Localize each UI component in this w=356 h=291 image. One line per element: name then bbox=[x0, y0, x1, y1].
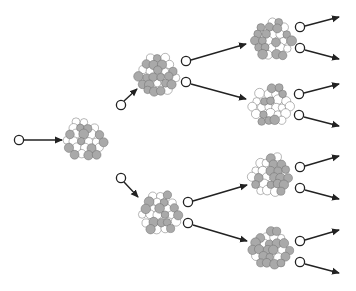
connector-node bbox=[116, 100, 125, 109]
cell-cluster bbox=[247, 153, 292, 197]
cell bbox=[174, 211, 183, 220]
cell bbox=[258, 118, 265, 125]
cell bbox=[77, 137, 84, 144]
cell-cluster bbox=[63, 118, 108, 160]
cell bbox=[70, 150, 79, 159]
cell bbox=[156, 87, 165, 96]
connector-node bbox=[183, 197, 192, 206]
cell bbox=[273, 227, 281, 235]
cell bbox=[255, 88, 265, 98]
cell bbox=[279, 239, 288, 248]
connector-node bbox=[294, 89, 303, 98]
arrow-edge bbox=[191, 44, 246, 60]
cell bbox=[141, 204, 151, 214]
cell bbox=[84, 151, 93, 160]
cell bbox=[287, 36, 297, 46]
cell bbox=[251, 109, 260, 118]
cell bbox=[167, 224, 175, 232]
cell bbox=[161, 211, 169, 219]
arrow-edge bbox=[305, 156, 339, 166]
cell-cluster bbox=[250, 18, 296, 60]
cell bbox=[284, 45, 291, 52]
cell bbox=[258, 49, 268, 59]
cell bbox=[272, 38, 281, 47]
connector-node bbox=[295, 162, 304, 171]
arrow-edge bbox=[124, 89, 137, 101]
cell bbox=[163, 191, 171, 199]
arrow-edge bbox=[304, 117, 339, 126]
cell bbox=[277, 187, 285, 195]
cell-cluster bbox=[248, 84, 295, 126]
cell bbox=[267, 97, 275, 105]
connector-node bbox=[295, 183, 304, 192]
arrow-edge bbox=[305, 230, 339, 240]
connector-node bbox=[116, 173, 125, 182]
arrow-edge bbox=[304, 84, 339, 93]
arrow-edge bbox=[191, 84, 246, 99]
connector-node bbox=[295, 257, 304, 266]
arrow-edge bbox=[305, 190, 339, 199]
cell bbox=[282, 166, 290, 174]
cell bbox=[277, 259, 285, 267]
arrow-edge bbox=[193, 185, 247, 201]
arrow-edge bbox=[124, 182, 138, 197]
arrow-edge bbox=[305, 50, 339, 59]
connector-node bbox=[295, 236, 304, 245]
arrow-edge bbox=[305, 264, 339, 273]
cell bbox=[134, 72, 144, 82]
cell bbox=[66, 130, 75, 139]
cell bbox=[92, 150, 101, 159]
branching-cluster-diagram bbox=[0, 0, 356, 291]
cell bbox=[279, 51, 287, 59]
cell bbox=[99, 138, 108, 147]
cell-cluster bbox=[138, 191, 182, 234]
connector-node bbox=[181, 77, 190, 86]
arrow-edge bbox=[305, 17, 339, 26]
cell bbox=[270, 115, 280, 125]
cell bbox=[273, 24, 282, 33]
cell bbox=[252, 181, 260, 189]
connector-node bbox=[181, 56, 190, 65]
connector-node bbox=[183, 218, 192, 227]
cell bbox=[267, 84, 276, 93]
connector-node bbox=[14, 135, 23, 144]
connector-node bbox=[294, 110, 303, 119]
cell bbox=[279, 90, 287, 98]
cell-clusters bbox=[63, 18, 296, 269]
connector-node bbox=[295, 43, 304, 52]
cell bbox=[167, 80, 176, 89]
cell-cluster bbox=[248, 227, 294, 269]
arrow-edge bbox=[193, 225, 247, 241]
cell bbox=[146, 224, 155, 233]
cell-cluster bbox=[134, 53, 180, 96]
connector-node bbox=[295, 22, 304, 31]
